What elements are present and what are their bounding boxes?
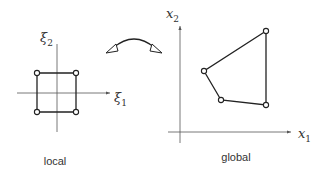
x2-axis-label: x2 xyxy=(166,6,179,24)
global-node-icon xyxy=(263,28,268,33)
global-coordinate-system: x2 x1 global xyxy=(166,6,311,163)
global-caption: global xyxy=(221,151,250,163)
global-node-icon xyxy=(201,68,206,73)
xi2-axis-label: ξ2 xyxy=(40,30,53,48)
local-node-icon xyxy=(73,109,78,114)
global-node-icon xyxy=(263,102,268,107)
local-node-icon xyxy=(34,109,39,114)
local-node-icon xyxy=(34,70,39,75)
global-quadrilateral-element xyxy=(204,31,266,105)
xi1-axis-label: ξ1 xyxy=(114,90,127,108)
local-caption: local xyxy=(44,155,67,167)
local-square-element xyxy=(37,73,76,112)
global-node-icon xyxy=(218,97,223,102)
local-node-icon xyxy=(73,70,78,75)
diagram-canvas: ξ2 ξ1 local x2 x1 global xyxy=(0,0,325,174)
mapping-double-arrow-icon xyxy=(106,39,162,53)
x1-axis-label: x1 xyxy=(298,126,311,144)
